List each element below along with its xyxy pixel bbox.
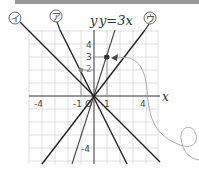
label-i: イ [11, 14, 20, 24]
y-tick-3: 3 [86, 52, 92, 62]
point-1-3 [105, 55, 110, 60]
label-leader-u [145, 24, 149, 30]
annotation-arrow-icon [111, 54, 118, 61]
x-tick-neg1: -1 [73, 99, 82, 109]
coordinate-graph: イ ア ウ y y=3x x -4 -1 O 1 4 4 3 2 -4 [0, 0, 199, 176]
point-neg1-2 [79, 68, 84, 73]
x-axis-label: x [162, 90, 169, 104]
label-leader-a [57, 22, 60, 30]
x-tick-neg4: -4 [34, 99, 43, 109]
x-tick-1: 1 [104, 99, 110, 109]
y-axis-label: y [89, 13, 98, 28]
x-tick-4: 4 [140, 99, 146, 109]
label-leader-i [20, 22, 28, 30]
y-tick-2: 2 [86, 64, 92, 74]
y-tick-4: 4 [86, 40, 92, 50]
label-a: ア [52, 12, 61, 22]
equation-label: y=3x [98, 13, 134, 28]
label-u: ウ [146, 14, 155, 24]
origin-label: O [85, 99, 92, 109]
y-tick-neg4: -4 [81, 144, 90, 154]
